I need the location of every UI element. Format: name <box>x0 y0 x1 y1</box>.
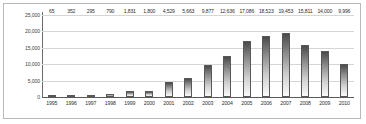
bar-value-label: 9,877 <box>202 9 214 15</box>
x-tick-label: 2007 <box>276 99 296 109</box>
bar[interactable]: 4,529 <box>165 82 173 97</box>
x-tick-label: 2000 <box>140 99 160 109</box>
bar-value-label: 17,086 <box>239 9 254 15</box>
bar[interactable]: 5,663 <box>184 78 192 97</box>
x-tick-label: 1997 <box>81 99 101 109</box>
x-axis-tick-labels: 1995199619971998199920002001200220032004… <box>42 99 354 109</box>
bar[interactable]: 790 <box>106 94 114 97</box>
x-tick-label: 1995 <box>42 99 62 109</box>
x-tick-label: 2009 <box>315 99 335 109</box>
bar-value-label: 352 <box>67 9 75 15</box>
y-tick-label: 10,000 <box>6 62 40 67</box>
bar-value-label: 790 <box>106 9 114 15</box>
bar-slot: 19,453 <box>276 15 296 97</box>
bar-value-label: 18,523 <box>259 9 274 15</box>
bar-slot: 18,523 <box>257 15 277 97</box>
bar-slot: 15,811 <box>296 15 316 97</box>
x-tick-label: 2006 <box>257 99 277 109</box>
y-tick-label: 20,000 <box>6 29 40 34</box>
bar-value-label: 65 <box>49 9 54 15</box>
bar[interactable]: 12,636 <box>223 56 231 97</box>
x-tick-label: 2008 <box>296 99 316 109</box>
x-tick-label: 2005 <box>237 99 257 109</box>
bar-value-label: 4,529 <box>163 9 175 15</box>
bar[interactable]: 1,831 <box>126 91 134 97</box>
y-tick-label: 5,000 <box>6 78 40 83</box>
bar[interactable]: 65 <box>48 95 56 97</box>
y-tick-label: 15,000 <box>6 45 40 50</box>
bar-slot: 9,996 <box>335 15 355 97</box>
x-tick-label: 1996 <box>62 99 82 109</box>
bar-value-label: 1,831 <box>124 9 136 15</box>
bar[interactable]: 352 <box>67 95 75 97</box>
plot-area: 653522957901,8311,8004,5295,6639,87712,6… <box>42 15 354 97</box>
bar-slot: 295 <box>81 15 101 97</box>
bar-slot: 12,636 <box>218 15 238 97</box>
bar[interactable]: 15,811 <box>301 45 309 97</box>
bar[interactable]: 1,800 <box>145 91 153 97</box>
bar-value-label: 12,636 <box>220 9 235 15</box>
y-tick-label: 0 <box>6 95 40 100</box>
x-tick-label: 2003 <box>198 99 218 109</box>
bar[interactable]: 18,523 <box>262 36 270 97</box>
y-axis-tick-labels: 25,00020,00015,00010,0005,0000 <box>4 15 40 97</box>
bar-slot: 4,529 <box>159 15 179 97</box>
bar-slot: 1,800 <box>140 15 160 97</box>
bar-slot: 352 <box>62 15 82 97</box>
x-tick-label: 1998 <box>101 99 121 109</box>
x-tick-label: 2004 <box>218 99 238 109</box>
x-tick-label: 2010 <box>335 99 355 109</box>
bar[interactable]: 9,996 <box>340 64 348 97</box>
chart-frame: 25,00020,00015,00010,0005,0000 653522957… <box>3 3 361 119</box>
bar-slot: 9,877 <box>198 15 218 97</box>
bar-value-label: 19,453 <box>278 9 293 15</box>
bar-slot: 1,831 <box>120 15 140 97</box>
bar[interactable]: 295 <box>87 95 95 97</box>
y-tick-label: 25,000 <box>6 13 40 18</box>
bar-value-label: 14,000 <box>317 9 332 15</box>
bar[interactable]: 9,877 <box>204 65 212 97</box>
bar-series: 653522957901,8311,8004,5295,6639,87712,6… <box>42 15 354 97</box>
bar-slot: 65 <box>42 15 62 97</box>
bar-value-label: 1,800 <box>143 9 155 15</box>
bar-slot: 14,000 <box>315 15 335 97</box>
bar-slot: 790 <box>101 15 121 97</box>
bar[interactable]: 14,000 <box>321 51 329 97</box>
bar[interactable]: 17,086 <box>243 41 251 97</box>
axis-baseline <box>42 97 354 98</box>
bar-value-label: 9,996 <box>338 9 350 15</box>
bar-slot: 17,086 <box>237 15 257 97</box>
x-tick-label: 2001 <box>159 99 179 109</box>
x-tick-label: 1999 <box>120 99 140 109</box>
bar-value-label: 15,811 <box>298 9 312 15</box>
bar-value-label: 295 <box>87 9 95 15</box>
bar-value-label: 5,663 <box>182 9 194 15</box>
bar[interactable]: 19,453 <box>282 33 290 97</box>
x-tick-label: 2002 <box>179 99 199 109</box>
bar-slot: 5,663 <box>179 15 199 97</box>
